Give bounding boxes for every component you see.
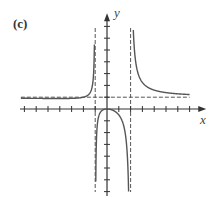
x-axis-label: x — [199, 112, 206, 127]
y-axis-arrow-icon — [104, 13, 110, 21]
curve-right — [133, 30, 189, 95]
curve-left — [21, 44, 95, 98]
curves — [21, 30, 190, 191]
asymptotes — [21, 28, 190, 192]
axes — [20, 13, 206, 196]
graph: x y — [0, 0, 217, 202]
curve-middle — [96, 109, 129, 191]
y-axis-label: y — [112, 5, 120, 20]
